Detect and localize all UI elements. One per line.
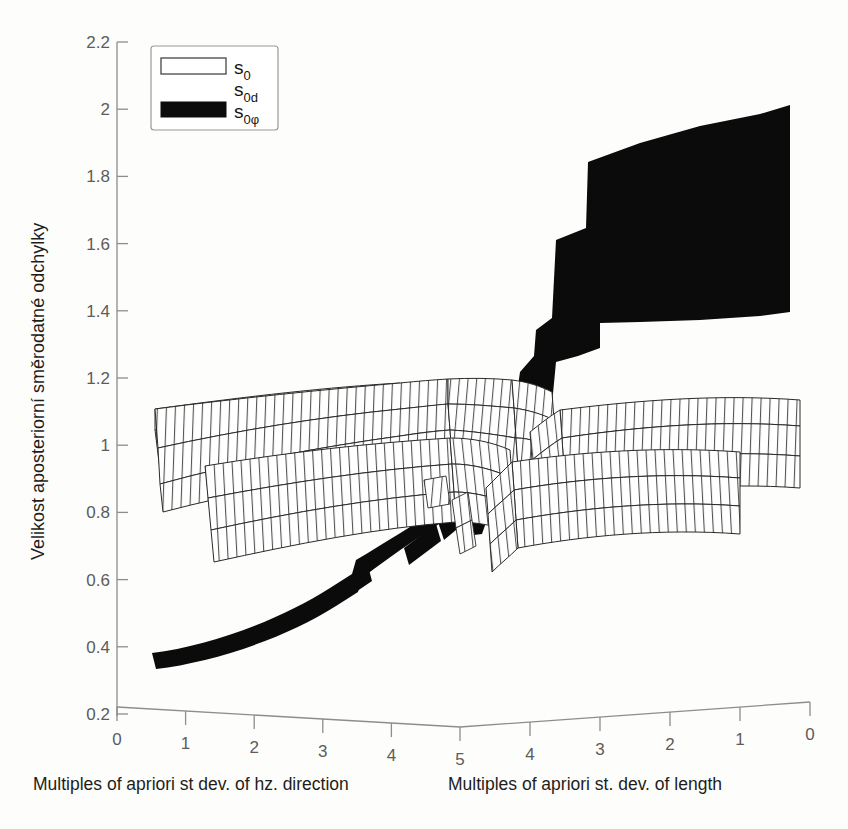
x-axis-line [117,702,810,727]
x-tick-len-1-label: 1 [735,730,744,749]
x-tick-hz-1-label: 1 [181,734,190,753]
s0-left-band-a2 [448,378,514,408]
y-tick-label-1.6: 1.6 [86,235,110,254]
chart-canvas: 2.221.81.61.41.210.80.60.40.2 Velikost a… [0,0,848,829]
x-tick-len-3-label: 3 [595,740,604,759]
y-tick-label-2: 2 [101,100,110,119]
x-axis: 01234543210 [112,702,814,769]
x-axis-title-left: Multiples of apriori st dev. of hz. dire… [33,774,349,794]
y-tick-label-0.4: 0.4 [86,638,110,657]
legend-label-s0phi-sub: 0φ [244,112,260,127]
x-tick-hz-3-label: 3 [318,742,327,761]
crossover-frag-3 [424,476,450,508]
legend-swatch-s0phi [161,102,226,117]
y-tick-label-0.2: 0.2 [86,705,110,724]
legend-label-s0phi-main: s [234,101,244,122]
x-tick-len-2-label: 2 [665,735,674,754]
x-tick-len-0-label: 0 [805,725,814,744]
legend-label-s0d-main: s [234,79,244,100]
x-tick-group [117,702,810,741]
y-tick-label-2.2: 2.2 [86,33,110,52]
y-tick-label-1.4: 1.4 [86,302,110,321]
y-axis-title: Velikost aposteriorní směrodatné odchylk… [28,223,48,560]
legend-swatch-s0d [161,80,226,96]
series-s0d-right [486,450,740,572]
chart-figure: 2.221.81.61.41.210.80.60.40.2 Velikost a… [0,0,848,829]
y-axis: 2.221.81.61.41.210.80.60.40.2 [86,33,128,724]
x-tick-hz-0-label: 0 [112,730,121,749]
legend-label-s0-sub: 0 [244,68,251,83]
y-tick-label-1.8: 1.8 [86,167,110,186]
y-tick-label-1: 1 [101,436,110,455]
x-tick-hz-4-label: 4 [387,746,396,765]
x-tick-hz-5-label: 5 [455,750,464,769]
y-tick-label-0.8: 0.8 [86,503,110,522]
x-axis-title-right: Multiples of apriori st. dev. of length [448,774,722,794]
legend[interactable]: s0 s0d s0φ [151,46,278,130]
y-tick-label-0.6: 0.6 [86,571,110,590]
y-tick-group [117,42,128,714]
legend-swatch-s0 [161,58,226,74]
legend-label-s0d-sub: 0d [244,90,258,105]
x-tick-label-group: 01234543210 [112,725,814,769]
x-tick-hz-2-label: 2 [249,738,258,757]
x-tick-len-4-label: 4 [525,745,534,764]
y-tick-label-1.2: 1.2 [86,369,110,388]
legend-label-s0-main: s [234,57,244,78]
y-tick-label-group: 2.221.81.61.41.210.80.60.40.2 [86,33,110,724]
